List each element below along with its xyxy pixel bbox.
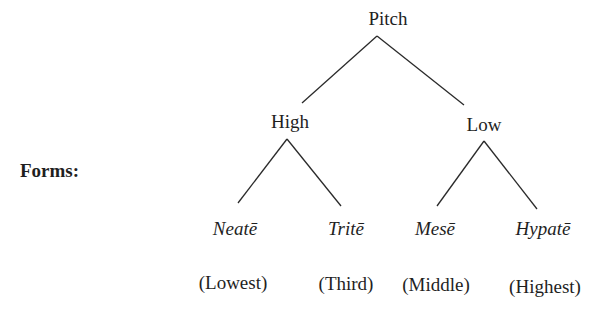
leaf-hypate: Hypatē <box>516 218 571 240</box>
edge-pitch-high <box>302 36 377 103</box>
gloss-highest: (Highest) <box>509 276 581 298</box>
edge-pitch-low <box>377 36 464 105</box>
forms-label: Forms: <box>20 160 79 182</box>
leaf-mese: Mesē <box>415 218 455 240</box>
leaf-trite: Tritē <box>328 218 364 240</box>
gloss-middle: (Middle) <box>402 274 470 296</box>
leaf-neate: Neatē <box>213 218 257 240</box>
edge-high-neate <box>238 139 287 203</box>
edge-low-hypate <box>484 141 537 209</box>
edge-low-mese <box>437 141 484 206</box>
node-low: Low <box>467 114 502 136</box>
tree-edges <box>0 0 602 314</box>
gloss-third: (Third) <box>319 273 374 295</box>
node-pitch: Pitch <box>368 8 407 30</box>
edge-high-trite <box>287 139 341 206</box>
gloss-lowest: (Lowest) <box>199 272 268 294</box>
node-high: High <box>271 111 309 133</box>
